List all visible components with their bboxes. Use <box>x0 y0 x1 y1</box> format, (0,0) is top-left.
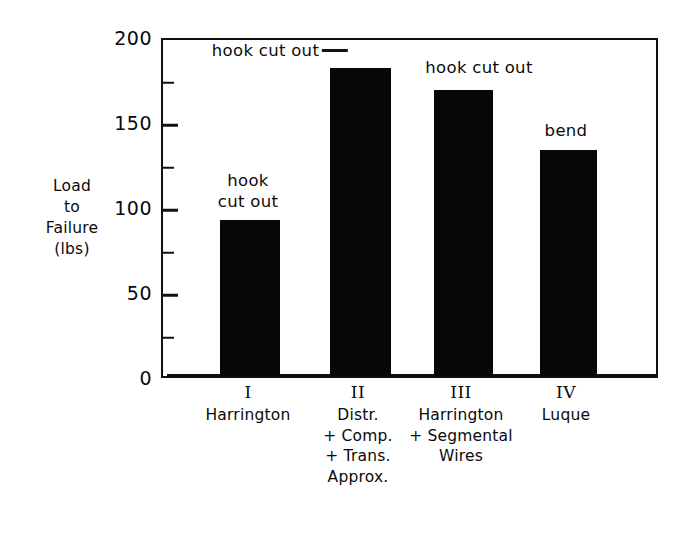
x-axis-baseline-segment <box>493 374 540 377</box>
y-axis-major-tick <box>163 209 178 212</box>
y-axis-tick-label: 200 <box>100 27 152 49</box>
annotation-line: cut out <box>218 191 278 212</box>
y-axis-tick-labels: 200150100500 <box>96 0 152 538</box>
x-axis-baseline-segment <box>597 374 657 377</box>
y-axis-tick-label: 0 <box>100 367 152 389</box>
bar-annotation-iv: bend <box>545 120 588 141</box>
y-axis-tick-label: 100 <box>100 197 152 219</box>
x-category-iv: IVLuque <box>501 383 631 426</box>
x-category-numeral: IV <box>501 383 631 402</box>
bar-annotation-ii: hook cut out <box>212 40 348 61</box>
y-axis-tick-label: 150 <box>100 112 152 134</box>
x-category-name-line: Wires <box>396 446 526 467</box>
bar-iii <box>434 90 493 376</box>
bar-iv <box>540 150 597 376</box>
bar-chart-figure: Load to Failure (lbs) 200150100500 hookc… <box>0 0 681 538</box>
annotation-line: bend <box>545 120 588 141</box>
y-axis-minor-tick <box>163 336 174 339</box>
y-axis-tick-label: 50 <box>100 282 152 304</box>
annotation-line: hook <box>218 170 278 191</box>
bar-i <box>220 220 280 376</box>
bar-annotation-i: hookcut out <box>218 170 278 212</box>
y-axis-major-tick <box>163 124 178 127</box>
x-category-name-line: + Segmental <box>396 426 526 447</box>
y-axis-minor-tick <box>163 251 174 254</box>
x-axis-baseline-segment <box>167 374 220 377</box>
bar-annotation-iii: hook cut out <box>425 57 532 78</box>
x-axis-baseline-segment <box>391 374 434 377</box>
x-category-name-line: Approx. <box>293 467 423 488</box>
y-axis-minor-tick <box>163 166 174 169</box>
annotation-leader-line <box>322 49 348 52</box>
x-category-name-line: Luque <box>501 405 631 426</box>
bar-ii <box>330 68 391 376</box>
y-axis-major-tick <box>163 294 178 297</box>
y-axis-minor-tick <box>163 81 174 84</box>
annotation-line: hook cut out <box>212 40 348 61</box>
annotation-line: hook cut out <box>425 57 532 78</box>
x-axis-baseline-segment <box>280 374 330 377</box>
